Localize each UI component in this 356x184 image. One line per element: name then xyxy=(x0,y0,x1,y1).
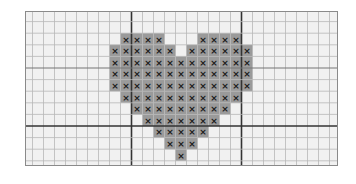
stitch-x-icon: × xyxy=(243,69,251,79)
stitch-x-icon: × xyxy=(199,35,207,45)
stitch-x-icon: × xyxy=(133,81,141,91)
stitch-x-icon: × xyxy=(199,46,207,56)
stitch-x-icon: × xyxy=(188,127,196,137)
stitch-x-icon: × xyxy=(155,81,163,91)
stitch-x-icon: × xyxy=(210,35,218,45)
stitch-x-icon: × xyxy=(232,81,240,91)
stitch-x-icon: × xyxy=(155,116,163,126)
stitch-x-icon: × xyxy=(199,116,207,126)
stitch-x-icon: × xyxy=(166,81,174,91)
stitch-x-icon: × xyxy=(111,58,119,68)
stitch-x-icon: × xyxy=(188,58,196,68)
stitch-x-icon: × xyxy=(188,69,196,79)
stitch-x-icon: × xyxy=(177,93,185,103)
stitch-x-icon: × xyxy=(144,116,152,126)
stitch-x-icon: × xyxy=(177,81,185,91)
stitch-x-icon: × xyxy=(188,81,196,91)
stitch-x-icon: × xyxy=(155,93,163,103)
stitch-x-icon: × xyxy=(144,81,152,91)
stitch-x-icon: × xyxy=(188,139,196,149)
stitch-x-icon: × xyxy=(122,58,130,68)
stitch-x-icon: × xyxy=(155,46,163,56)
stitch-x-icon: × xyxy=(122,81,130,91)
stitch-x-icon: × xyxy=(177,116,185,126)
stitch-x-icon: × xyxy=(122,35,130,45)
stitch-x-icon: × xyxy=(155,104,163,114)
stitch-x-icon: × xyxy=(166,104,174,114)
stitch-x-icon: × xyxy=(177,104,185,114)
stitch-x-icon: × xyxy=(221,104,229,114)
stitch-x-icon: × xyxy=(155,35,163,45)
stitch-x-icon: × xyxy=(232,58,240,68)
stitch-x-icon: × xyxy=(133,69,141,79)
stitch-x-icon: × xyxy=(144,69,152,79)
stitch-x-icon: × xyxy=(232,46,240,56)
stitch-x-icon: × xyxy=(155,127,163,137)
stitch-x-icon: × xyxy=(166,93,174,103)
grid-canvas: ××××××××××××××××××××××××××××××××××××××××… xyxy=(26,12,338,166)
stitch-x-icon: × xyxy=(210,116,218,126)
stitch-x-icon: × xyxy=(166,127,174,137)
stitch-x-icon: × xyxy=(199,104,207,114)
stitch-x-icon: × xyxy=(177,151,185,161)
stitch-x-icon: × xyxy=(133,93,141,103)
stitch-x-icon: × xyxy=(155,58,163,68)
stitch-x-icon: × xyxy=(166,139,174,149)
stitch-x-icon: × xyxy=(122,46,130,56)
stitch-x-icon: × xyxy=(210,46,218,56)
stitch-x-icon: × xyxy=(166,46,174,56)
stitch-x-icon: × xyxy=(155,69,163,79)
stitch-x-icon: × xyxy=(111,46,119,56)
stitch-x-icon: × xyxy=(144,58,152,68)
stitch-x-icon: × xyxy=(232,93,240,103)
stitch-x-icon: × xyxy=(210,81,218,91)
stitch-x-icon: × xyxy=(144,46,152,56)
stitch-x-icon: × xyxy=(166,69,174,79)
stitch-x-icon: × xyxy=(177,58,185,68)
stitch-x-icon: × xyxy=(133,35,141,45)
stitch-x-icon: × xyxy=(221,93,229,103)
stitch-x-icon: × xyxy=(243,81,251,91)
stitch-x-icon: × xyxy=(210,58,218,68)
stitch-x-icon: × xyxy=(199,93,207,103)
stitch-x-icon: × xyxy=(188,104,196,114)
stitch-x-icon: × xyxy=(199,127,207,137)
stitch-x-icon: × xyxy=(232,35,240,45)
stitch-x-icon: × xyxy=(122,69,130,79)
stitch-x-icon: × xyxy=(111,81,119,91)
stitch-x-icon: × xyxy=(199,58,207,68)
stitch-x-icon: × xyxy=(210,104,218,114)
stitch-x-icon: × xyxy=(122,93,130,103)
stitch-x-icon: × xyxy=(133,58,141,68)
stitch-x-icon: × xyxy=(210,93,218,103)
stitch-x-icon: × xyxy=(177,127,185,137)
stitch-x-icon: × xyxy=(221,58,229,68)
stitch-x-icon: × xyxy=(221,69,229,79)
stitch-x-icon: × xyxy=(199,81,207,91)
stitch-x-icon: × xyxy=(166,58,174,68)
stitch-x-icon: × xyxy=(188,93,196,103)
stitch-x-icon: × xyxy=(210,69,218,79)
stitch-x-icon: × xyxy=(144,93,152,103)
stitch-x-icon: × xyxy=(188,116,196,126)
cross-stitch-grid: ××××××××××××××××××××××××××××××××××××××××… xyxy=(25,11,338,166)
stitch-x-icon: × xyxy=(221,81,229,91)
stitch-x-icon: × xyxy=(188,46,196,56)
stitch-x-icon: × xyxy=(243,46,251,56)
stitch-x-icon: × xyxy=(232,69,240,79)
stitch-x-icon: × xyxy=(221,35,229,45)
stitch-x-icon: × xyxy=(133,46,141,56)
stitch-x-icon: × xyxy=(166,116,174,126)
stitch-x-icon: × xyxy=(221,46,229,56)
stitch-x-icon: × xyxy=(177,139,185,149)
stitch-x-icon: × xyxy=(144,35,152,45)
stitch-x-icon: × xyxy=(133,104,141,114)
stitch-x-icon: × xyxy=(199,69,207,79)
stitch-x-icon: × xyxy=(111,69,119,79)
stitch-x-icon: × xyxy=(144,104,152,114)
stitch-x-icon: × xyxy=(243,58,251,68)
stitch-x-icon: × xyxy=(177,69,185,79)
